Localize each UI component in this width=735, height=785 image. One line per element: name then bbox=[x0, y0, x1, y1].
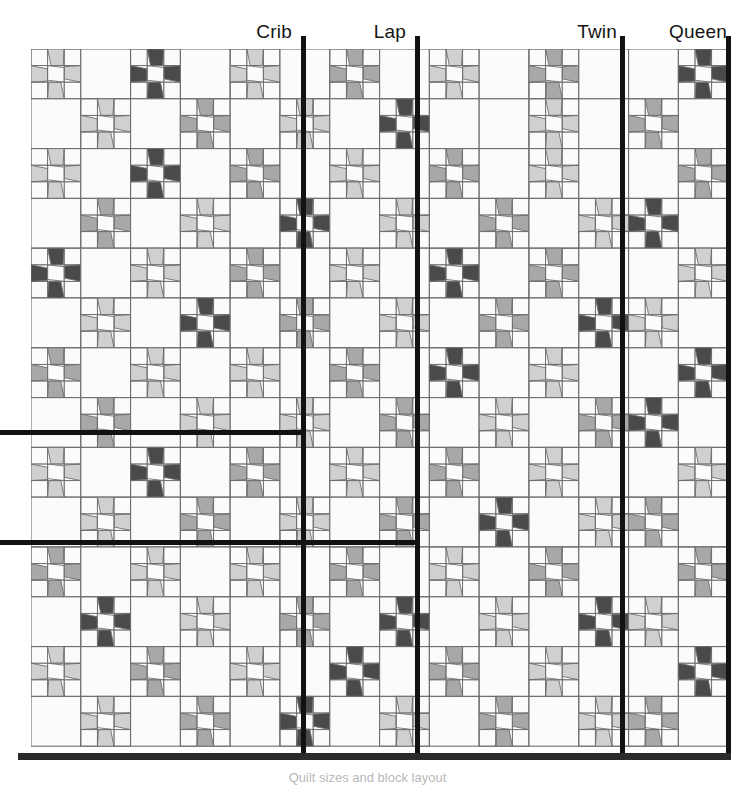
queen-size-label: Queen bbox=[669, 22, 727, 41]
figure-caption: Quilt sizes and block layout bbox=[0, 770, 735, 785]
crib-vertical-rule bbox=[301, 36, 306, 759]
twin-size-label: Twin bbox=[577, 22, 617, 41]
twin-vertical-rule bbox=[620, 36, 625, 759]
lap-horizontal-rule bbox=[0, 540, 420, 545]
quilt-baseline-rule bbox=[18, 753, 731, 760]
crib-horizontal-rule bbox=[0, 430, 306, 435]
lap-size-label: Lap bbox=[374, 22, 406, 41]
lap-vertical-rule bbox=[415, 36, 420, 759]
crib-size-label: Crib bbox=[256, 22, 292, 41]
queen-vertical-rule bbox=[726, 36, 731, 759]
